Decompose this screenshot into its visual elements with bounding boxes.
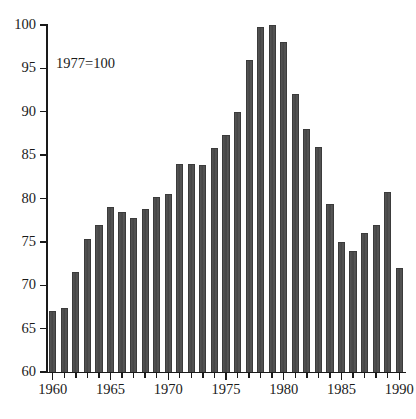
x-axis-tick	[260, 372, 261, 378]
x-axis-tick	[295, 372, 296, 378]
y-axis-tick-label: 95	[2, 60, 36, 75]
y-axis-tick-label: 80	[2, 191, 36, 206]
x-axis-tick	[329, 372, 330, 378]
bar	[349, 251, 356, 372]
x-axis-tick	[352, 372, 353, 378]
x-axis-tick	[271, 372, 272, 378]
x-axis-tick	[387, 372, 388, 378]
bar	[142, 209, 149, 372]
x-axis-tick	[110, 372, 111, 380]
bar	[130, 218, 137, 372]
bar	[49, 311, 56, 372]
x-axis-tick	[87, 372, 88, 378]
x-axis-tick	[237, 372, 238, 378]
chart-annotation: 1977=100	[56, 55, 115, 72]
y-axis-tick-label: 90	[2, 104, 36, 119]
x-axis-tick	[156, 372, 157, 378]
bar	[384, 192, 391, 372]
bar	[222, 135, 229, 372]
bar	[61, 308, 68, 372]
x-axis-tick	[52, 372, 53, 380]
bar	[396, 268, 403, 372]
bar	[292, 94, 299, 372]
x-axis-tick	[133, 372, 134, 378]
bar	[315, 147, 322, 372]
bar	[84, 239, 91, 372]
bar	[176, 164, 183, 372]
bar	[72, 272, 79, 372]
x-axis-tick	[168, 372, 169, 380]
bar	[234, 112, 241, 372]
y-axis-tick-label: 85	[2, 147, 36, 162]
bar	[280, 42, 287, 372]
x-axis-tick	[179, 372, 180, 378]
x-axis-tick	[144, 372, 145, 378]
x-axis-tick	[318, 372, 319, 378]
bar	[165, 194, 172, 372]
bar	[373, 225, 380, 372]
x-axis-tick	[64, 372, 65, 378]
x-axis-tick	[121, 372, 122, 378]
x-axis-tick	[202, 372, 203, 378]
bar	[303, 129, 310, 372]
x-axis-tick	[283, 372, 284, 380]
bar	[211, 148, 218, 372]
y-axis-tick-label: 75	[2, 234, 36, 249]
y-axis-tick-label: 60	[2, 364, 36, 379]
x-axis-tick-label: 1985	[316, 382, 366, 398]
bar	[338, 242, 345, 372]
x-axis-tick-label: 1960	[28, 382, 78, 398]
x-axis-tick-label: 1975	[201, 382, 251, 398]
bar	[246, 60, 253, 372]
x-axis-tick-label: 1980	[259, 382, 309, 398]
x-axis-tick	[98, 372, 99, 378]
x-axis-tick	[364, 372, 365, 378]
bar	[326, 204, 333, 372]
y-axis-tick-label: 70	[2, 277, 36, 292]
x-axis-tick	[306, 372, 307, 378]
x-axis-tick-label: 1965	[86, 382, 136, 398]
x-axis-tick	[341, 372, 342, 380]
bar	[107, 207, 114, 372]
bar-chart: 6065707580859095100 19601965197019751980…	[0, 0, 416, 419]
x-axis-tick-label: 1970	[143, 382, 193, 398]
bar	[188, 164, 195, 372]
bar	[269, 25, 276, 372]
x-axis-tick-label: 1990	[374, 382, 416, 398]
bar	[153, 197, 160, 372]
plot-area	[47, 25, 405, 372]
bar	[257, 27, 264, 372]
bar	[361, 233, 368, 372]
x-axis-tick	[75, 372, 76, 378]
x-axis-tick	[248, 372, 249, 378]
x-axis-tick	[375, 372, 376, 378]
x-axis-tick	[399, 372, 400, 380]
y-axis-tick-label: 100	[2, 17, 36, 32]
x-axis-tick	[214, 372, 215, 378]
x-axis-tick	[191, 372, 192, 378]
bar	[95, 225, 102, 372]
bar	[199, 165, 206, 372]
y-axis-tick-label: 65	[2, 321, 36, 336]
bar	[118, 212, 125, 372]
x-axis-tick	[225, 372, 226, 380]
